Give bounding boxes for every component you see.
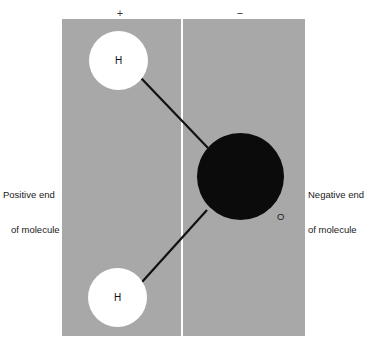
- negative-end-caption: Negative end of molecule: [308, 166, 368, 259]
- hydrogen-atom-bottom-label: H: [114, 293, 121, 303]
- oxygen-atom: [197, 133, 284, 220]
- polarity-divider-line: [181, 19, 183, 336]
- negative-sign: −: [232, 8, 248, 19]
- positive-end-caption: Positive end of molecule: [3, 166, 59, 259]
- positive-end-caption-line2: of molecule: [3, 224, 59, 236]
- positive-end-caption-line1: Positive end: [3, 189, 59, 201]
- negative-end-caption-line2: of molecule: [308, 224, 368, 236]
- hydrogen-atom-top-label: H: [115, 56, 122, 66]
- hydrogen-atom-bottom: H: [88, 268, 147, 327]
- oxygen-atom-label: O: [277, 212, 284, 222]
- positive-sign: +: [112, 8, 128, 19]
- hydrogen-atom-top: H: [89, 31, 148, 90]
- negative-end-caption-line1: Negative end: [308, 189, 368, 201]
